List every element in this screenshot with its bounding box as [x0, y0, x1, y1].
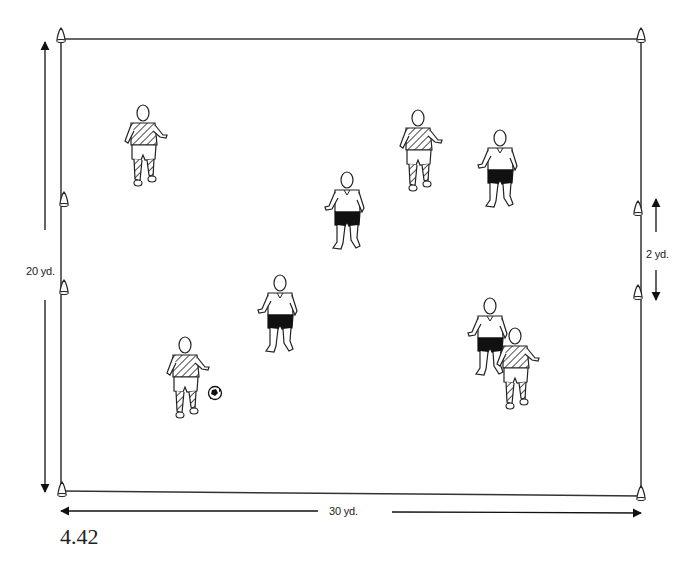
field-drawing [0, 0, 687, 567]
cone-icon [58, 482, 67, 497]
player-striped [125, 105, 167, 186]
figure-number: 4.42 [60, 524, 99, 550]
cone-icon [637, 486, 646, 501]
player-striped [400, 110, 442, 191]
soccer-ball-icon [209, 387, 222, 400]
cone-icon [57, 28, 66, 43]
drill-diagram: 20 yd. 2 yd. 30 yd. 4.42 [0, 0, 687, 567]
player-white [258, 275, 297, 352]
goal-width-label: 2 yd. [644, 248, 671, 260]
player-white [325, 172, 364, 249]
cone-icon [637, 28, 646, 43]
player-striped [167, 337, 209, 418]
width-label: 30 yd. [327, 505, 360, 517]
height-label: 20 yd. [24, 265, 57, 277]
player-white [478, 130, 517, 207]
